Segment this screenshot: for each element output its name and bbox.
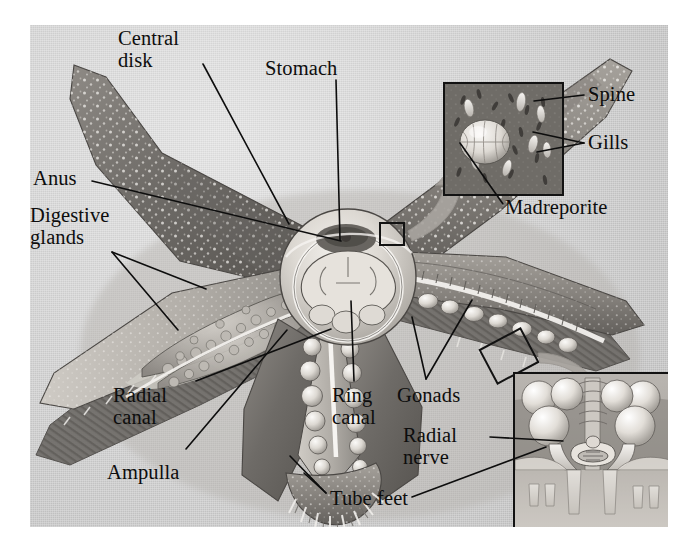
arm-upper-left [70, 65, 316, 287]
label-spine: Spine [588, 84, 635, 106]
label-stomach: Stomach [265, 58, 337, 80]
label-madreporite: Madreporite [505, 197, 607, 219]
madreporite-art [460, 120, 510, 164]
inset-aboral-surface-detail [443, 82, 564, 196]
label-tube-feet: Tube feet [330, 488, 408, 510]
label-gonads: Gonads [397, 385, 460, 407]
label-radial-canal: Radial canal [113, 385, 167, 428]
label-digestive-glands: Digestive glands [30, 205, 109, 248]
inset-arm-cross-section-detail [513, 372, 668, 527]
central-disk-art [280, 209, 416, 345]
starfish-anatomy-figure: Central disk Stomach Spine Gills Anus Ma… [0, 0, 691, 553]
label-ampulla: Ampulla [107, 462, 179, 484]
label-radial-nerve: Radial nerve [403, 425, 457, 468]
label-anus: Anus [33, 168, 77, 190]
label-gills: Gills [588, 132, 628, 154]
illustration-plate [30, 25, 668, 527]
label-central-disk: Central disk [118, 28, 179, 71]
label-ring-canal: Ring canal [332, 385, 376, 428]
